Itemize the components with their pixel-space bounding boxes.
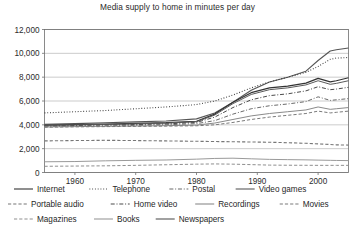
series-line-portable-audio [45,140,349,145]
y-tick-label: 10,000 [14,49,39,58]
legend-label: Recordings [218,200,259,209]
y-tick-label: 0 [35,169,40,178]
y-tick-label: 6,000 [19,97,40,106]
legend-label: Portable audio [31,200,84,209]
legend-label: Newspapers [179,215,225,224]
y-tick-label: 4,000 [19,121,40,130]
y-tick-label: 2,000 [19,145,40,154]
legend-item-magazines[interactable]: Magazines [14,215,77,224]
legend-label: Home video [134,200,178,209]
chart-legend: InternetTelephonePostalVideo gamesPortab… [0,183,355,239]
gridlines [45,30,349,173]
y-axis-tick-labels: 02,0004,0006,0008,00010,00012,000 [14,26,39,178]
legend-item-portable-audio[interactable]: Portable audio [8,200,84,209]
series-line-books [45,158,349,162]
y-tick-label: 8,000 [19,73,40,82]
legend-label: Internet [37,185,65,194]
series-line-internet [45,78,349,125]
series-line-magazines [45,164,349,166]
line-chart-plot: 02,0004,0006,0008,00010,00012,000 196019… [0,0,355,185]
legend-item-books[interactable]: Books [94,215,140,224]
legend-item-telephone[interactable]: Telephone [89,185,150,194]
legend-item-postal[interactable]: Postal [169,185,215,194]
legend-item-movies[interactable]: Movies [280,200,329,209]
legend-label: Telephone [112,185,150,194]
y-tick-label: 12,000 [14,26,39,35]
series-line-home-video [45,87,349,126]
legend-item-video-games[interactable]: Video games [236,185,307,194]
legend-label: Postal [192,185,215,194]
chart-container: Media supply to home in minutes per day … [0,0,355,239]
legend-label: Movies [303,200,329,209]
legend-item-internet[interactable]: Internet [14,185,65,194]
legend-item-newspapers[interactable]: Newspapers [156,215,225,224]
legend-item-recordings[interactable]: Recordings [195,200,259,209]
series-line-newspapers [45,48,349,124]
legend-label: Magazines [37,215,77,224]
legend-label: Books [117,215,140,224]
legend-label: Video games [259,185,307,194]
legend-item-home-video[interactable]: Home video [111,200,178,209]
